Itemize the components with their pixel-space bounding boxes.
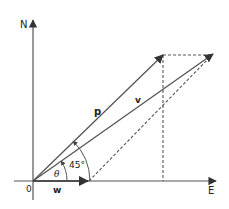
theta-label: θ xyxy=(54,169,60,179)
dashed-diagonal xyxy=(89,56,211,181)
vector-v xyxy=(33,54,213,181)
origin-label: 0 xyxy=(26,184,32,194)
vector-w-label: w xyxy=(53,185,61,195)
angle-theta-arc xyxy=(61,161,67,181)
vector-v-label: v xyxy=(135,95,141,105)
vector-diagram: N E 0 p v w θ 45° xyxy=(0,0,229,209)
vector-p-label: p xyxy=(94,106,101,117)
north-label: N xyxy=(20,19,27,30)
vector-p xyxy=(33,55,163,181)
east-label: E xyxy=(208,185,214,196)
angle-45-label: 45° xyxy=(69,160,85,170)
